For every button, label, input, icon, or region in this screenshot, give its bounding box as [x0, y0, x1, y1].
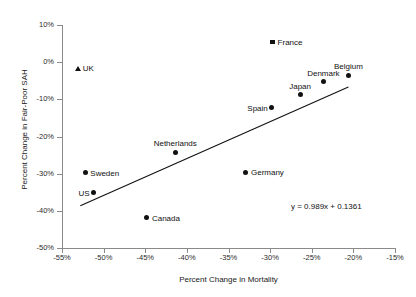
regression-equation-annotation: y = 0.989x + 0.1361: [291, 202, 362, 211]
data-point-label-germany: Germany: [251, 168, 284, 177]
data-point-label-us: US: [79, 188, 90, 197]
data-point-label-sweden: Sweden: [90, 168, 119, 177]
scatter-chart: 10%0%-10%-20%-30%-40%-50% -55%-50%-45%-4…: [0, 0, 416, 297]
trendline: [0, 0, 416, 297]
data-point-france[interactable]: [270, 40, 275, 45]
data-point-uk[interactable]: [75, 66, 81, 71]
data-point-belgium[interactable]: [346, 73, 351, 78]
data-point-netherlands[interactable]: [173, 150, 178, 155]
data-point-label-canada: Canada: [152, 213, 180, 222]
data-point-label-spain: Spain: [247, 103, 267, 112]
data-point-label-denmark: Denmark: [307, 69, 339, 78]
data-point-label-france: France: [278, 38, 303, 47]
data-point-label-netherlands: Netherlands: [154, 139, 197, 148]
data-point-label-uk: UK: [83, 64, 94, 73]
data-point-label-japan: Japan: [289, 82, 311, 91]
